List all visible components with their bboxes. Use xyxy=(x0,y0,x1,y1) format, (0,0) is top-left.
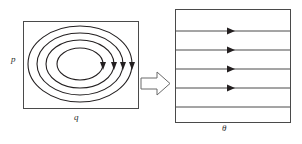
right-panel-border xyxy=(176,10,291,123)
contour-direction-arrowheads xyxy=(100,62,135,70)
left-panel-bottom-axis-label: q xyxy=(74,113,79,122)
right-panel-bottom-axis-label: θ xyxy=(222,124,226,133)
concentric-ellipse-contours xyxy=(28,26,132,102)
contour-ellipse-3 xyxy=(37,33,123,95)
left-panel-group xyxy=(24,22,139,109)
block-arrow-right-icon xyxy=(141,72,170,95)
contour-arrowhead-1 xyxy=(100,62,106,70)
contour-ellipse-1 xyxy=(57,48,103,80)
field-arrowhead-2 xyxy=(227,47,235,54)
contour-arrowhead-2 xyxy=(111,62,117,70)
field-arrowhead-1 xyxy=(227,28,235,35)
field-line-direction-arrowheads xyxy=(227,28,235,92)
right-panel-group xyxy=(175,10,291,123)
contour-arrowhead-4 xyxy=(129,62,135,70)
figure-canvas: p q θ xyxy=(0,0,302,144)
left-panel-left-axis-label: p xyxy=(11,55,16,64)
figure-vector-layer xyxy=(0,0,302,144)
contour-ellipse-4 xyxy=(28,26,132,102)
field-arrowhead-4 xyxy=(227,85,235,92)
field-arrowhead-3 xyxy=(227,66,235,73)
contour-arrowhead-3 xyxy=(120,62,126,70)
